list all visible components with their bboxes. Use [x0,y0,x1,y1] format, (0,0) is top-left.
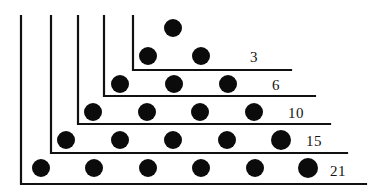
dot-r3-c3 [245,103,263,121]
dot-r1-c1 [192,47,210,65]
triangular-number-label-10: 10 [288,105,304,121]
triangular-number-label-3: 3 [250,49,258,65]
dot-r1-c0 [139,47,157,65]
dot-r4-c3 [218,131,236,149]
dot-array-group [32,19,318,178]
gnomon-path-3 [133,16,291,70]
triangular-number-label-21: 21 [330,163,346,179]
gnomon-path-21 [21,16,366,184]
dot-r5-c0 [32,159,50,177]
dot-r3-c2 [191,103,209,121]
dot-r0-c0 [164,19,182,37]
dot-r5-c2 [139,159,157,177]
triangular-number-labels-group: 36101521 [250,49,346,179]
diagram-canvas: 36101521 [0,0,380,193]
gnomon-lines-group [21,16,366,184]
dot-r4-c4 [271,130,291,150]
dot-r2-c0 [111,75,129,93]
dot-r3-c0 [84,103,102,121]
dot-r4-c2 [164,131,182,149]
gnomon-path-15 [51,16,347,153]
triangular-number-diagram: 36101521 [0,0,380,193]
triangular-number-label-15: 15 [306,133,322,149]
dot-r2-c1 [165,75,183,93]
dot-r3-c1 [138,103,156,121]
dot-r5-c3 [192,159,210,177]
dot-r2-c2 [219,75,237,93]
dot-r5-c1 [85,159,103,177]
dot-r5-c4 [246,159,264,177]
triangular-number-label-6: 6 [272,77,280,93]
dot-r5-c5 [298,158,318,178]
dot-r4-c1 [111,131,129,149]
dot-r4-c0 [57,131,75,149]
